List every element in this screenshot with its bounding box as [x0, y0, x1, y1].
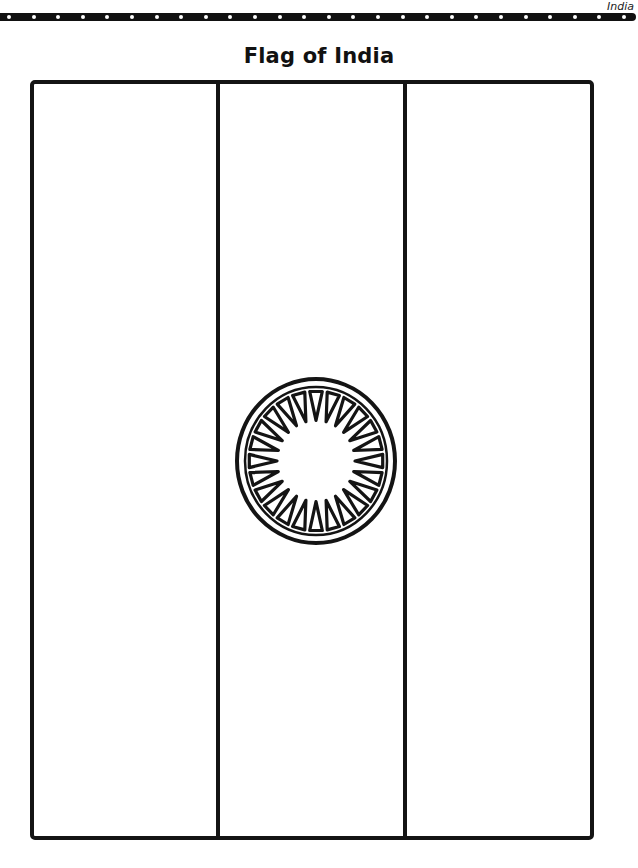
section-label: India	[607, 0, 634, 13]
dot	[253, 15, 257, 19]
chakra-spoke	[355, 454, 383, 467]
dot	[401, 15, 405, 19]
dot	[81, 15, 85, 19]
stripe-divider-right	[403, 84, 407, 836]
ashoka-chakra-icon	[234, 376, 398, 546]
dot	[302, 15, 306, 19]
dot	[622, 15, 626, 19]
dot	[573, 15, 577, 19]
dot	[228, 15, 232, 19]
dot	[32, 15, 36, 19]
dot	[376, 15, 380, 19]
dot	[548, 15, 552, 19]
page-title: Flag of India	[0, 44, 638, 68]
dot	[155, 15, 159, 19]
decorative-dot-bar	[0, 13, 636, 21]
chakra-spoke	[350, 481, 377, 501]
dot	[105, 15, 109, 19]
dot	[351, 15, 355, 19]
dot	[56, 15, 60, 19]
dot	[597, 15, 601, 19]
dot	[327, 15, 331, 19]
dot	[179, 15, 183, 19]
chakra-spoke	[255, 481, 282, 501]
dot	[278, 15, 282, 19]
chakra-spoke	[350, 421, 377, 441]
chakra-spoke	[255, 421, 282, 441]
dot	[130, 15, 134, 19]
chakra-spoke	[310, 502, 323, 531]
chakra-spoke	[249, 454, 277, 467]
dot	[7, 15, 11, 19]
dot	[499, 15, 503, 19]
dot	[204, 15, 208, 19]
stripe-divider-left	[216, 84, 220, 836]
dot	[450, 15, 454, 19]
dot	[524, 15, 528, 19]
dot	[425, 15, 429, 19]
chakra-spoke	[310, 392, 323, 421]
dot	[474, 15, 478, 19]
